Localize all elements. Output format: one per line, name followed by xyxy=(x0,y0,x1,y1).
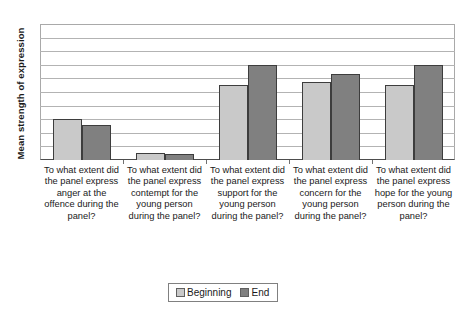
bar-end xyxy=(248,65,277,160)
category-label: To what extent did the panel express ang… xyxy=(40,165,123,222)
category-label: To what extent did the panel express sup… xyxy=(206,165,289,222)
x-axis-tick xyxy=(372,160,373,164)
bar-end xyxy=(414,65,443,160)
bar-beginning xyxy=(302,82,331,160)
bar-chart-figure: Mean strength of expression To what exte… xyxy=(0,0,462,324)
x-axis-tick xyxy=(289,160,290,164)
y-axis-title: Mean strength of expression xyxy=(15,14,26,174)
bar-group xyxy=(40,24,123,160)
legend-label: End xyxy=(251,287,269,298)
legend-item: Beginning xyxy=(176,287,231,298)
plot-area-wrapper xyxy=(40,24,455,160)
chart-legend: BeginningEnd xyxy=(168,283,278,302)
bar-beginning xyxy=(219,85,248,160)
bar-group xyxy=(289,24,372,160)
bar-end xyxy=(82,125,111,160)
x-axis-tick xyxy=(123,160,124,164)
category-label: To what extent did the panel express con… xyxy=(123,165,206,222)
x-axis-category-labels: To what extent did the panel express ang… xyxy=(40,165,455,222)
bar-group xyxy=(206,24,289,160)
bar-end xyxy=(331,74,360,160)
category-label: To what extent did the panel express hop… xyxy=(372,165,455,222)
bar-beginning xyxy=(136,153,165,160)
bar-group xyxy=(123,24,206,160)
bar-groups xyxy=(40,24,455,160)
category-label: To what extent did the panel express con… xyxy=(289,165,372,222)
legend-item: End xyxy=(240,287,269,298)
bar-group xyxy=(372,24,455,160)
legend-label: Beginning xyxy=(187,287,231,298)
legend-swatch-icon xyxy=(176,288,185,297)
bar-beginning xyxy=(385,85,414,160)
bar-beginning xyxy=(53,119,82,160)
legend-swatch-icon xyxy=(240,288,249,297)
x-axis-tick xyxy=(206,160,207,164)
